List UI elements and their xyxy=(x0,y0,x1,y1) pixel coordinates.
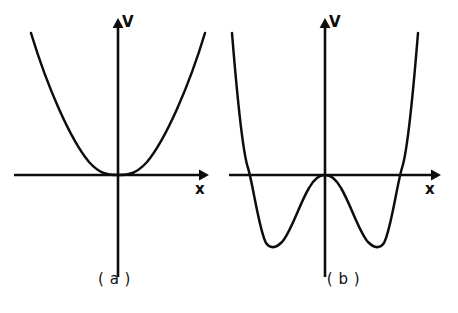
panel-a: V x ( a ) xyxy=(0,0,229,313)
v-axis-label-a: V xyxy=(122,15,134,30)
v-axis-label-b: V xyxy=(329,15,341,30)
plot-b xyxy=(229,0,458,285)
arrow-right-icon xyxy=(199,169,209,180)
plot-a xyxy=(0,0,229,285)
x-axis-label-a: x xyxy=(195,182,205,197)
x-axis-label-b: x xyxy=(425,182,435,197)
panel-caption-a: ( a ) xyxy=(0,270,229,288)
panel-b: V x ( b ) xyxy=(229,0,458,313)
figure-container: V x ( a ) V x ( b ) xyxy=(0,0,458,313)
panel-caption-b: ( b ) xyxy=(229,270,458,288)
arrow-right-icon xyxy=(431,169,441,180)
